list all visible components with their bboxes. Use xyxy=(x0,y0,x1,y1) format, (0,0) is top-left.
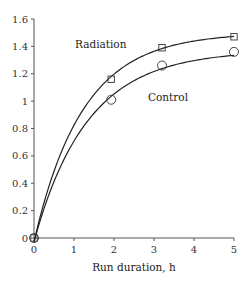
curve-control xyxy=(34,55,234,242)
x-tick-label: 3 xyxy=(151,244,157,255)
y-tick-label: 1.4 xyxy=(12,41,28,52)
x-tick-label: 2 xyxy=(111,244,117,255)
y-tick-label: 0.6 xyxy=(12,150,28,161)
data-markers xyxy=(30,34,239,243)
curve-radiation xyxy=(34,36,234,242)
marker-square xyxy=(159,45,165,51)
y-tick-label: 0.2 xyxy=(12,205,28,216)
x-tick-label: 5 xyxy=(231,244,237,255)
line-chart: 00.20.40.60.811.21.41.6012345 Radiation … xyxy=(0,0,251,283)
y-tick-label: 0.8 xyxy=(12,123,28,134)
y-tick-label: 0.4 xyxy=(12,178,28,189)
series-label-control: Control xyxy=(148,91,189,103)
marker-square xyxy=(231,34,237,40)
y-tick-label: 1.6 xyxy=(12,14,28,25)
marker-square xyxy=(108,76,114,82)
marker-square xyxy=(31,235,37,241)
y-tick-label: 1.2 xyxy=(12,68,28,79)
series-label-radiation: Radiation xyxy=(75,38,127,50)
x-axis-title: Run duration, h xyxy=(92,261,176,273)
fit-curves xyxy=(34,36,234,242)
x-tick-label: 4 xyxy=(191,244,197,255)
x-tick-label: 0 xyxy=(31,244,37,255)
y-tick-label: 0 xyxy=(22,233,28,244)
y-tick-label: 1 xyxy=(22,96,28,107)
marker-circle xyxy=(230,47,239,56)
x-tick-label: 1 xyxy=(71,244,77,255)
